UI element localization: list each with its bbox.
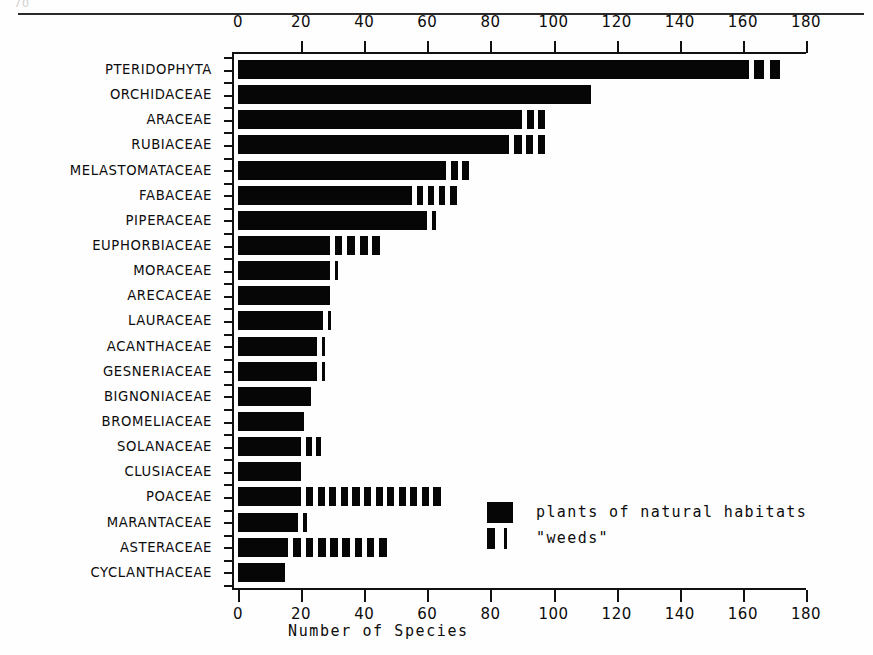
x-axis-tick-bottom: [364, 590, 366, 602]
y-axis-tick: [224, 359, 233, 361]
y-axis-tick: [224, 208, 233, 210]
category-label: MARANTACEAE: [107, 510, 212, 535]
bar-segment-weed: [328, 311, 331, 330]
legend-item-weeds: "weeds": [487, 526, 817, 552]
bar-segment-weed: [316, 437, 322, 456]
x-axis-line-top: [232, 52, 806, 54]
bar-segment-weed: [379, 538, 387, 557]
category-label: CYCLANTHACEAE: [90, 560, 212, 585]
bar-segment-weed: [376, 487, 383, 506]
bar-segment-weed: [399, 487, 406, 506]
bar-row: [238, 132, 806, 157]
x-axis-tick-label-top: 120: [602, 13, 632, 31]
bar-row: [238, 283, 806, 308]
y-axis-tick: [224, 258, 233, 260]
bar-segment-weed: [322, 362, 325, 381]
bar-row: [238, 57, 806, 82]
bar-row: [238, 384, 806, 409]
x-axis-tick-label-top: 100: [538, 13, 568, 31]
bar-segment-weed: [341, 487, 348, 506]
bar-segment-weed: [527, 110, 534, 129]
x-axis-tick-label-top: 80: [480, 13, 500, 31]
y-axis-tick-minor: [224, 246, 233, 248]
y-axis-tick-minor: [224, 95, 233, 97]
x-axis-tick-bottom: [238, 590, 240, 602]
x-axis-tick-bottom: [301, 590, 303, 602]
category-label: RUBIACEAE: [131, 132, 212, 157]
x-axis-tick-top: [301, 41, 303, 53]
bar-segment-natural: [238, 60, 749, 79]
x-axis-tick-bottom: [554, 590, 556, 602]
y-axis-tick: [224, 384, 233, 386]
x-axis-tick-label-bottom: 160: [728, 605, 758, 623]
category-label: POACEAE: [146, 484, 212, 509]
x-axis-tick-label-top: 20: [291, 13, 311, 31]
bar-segment-weed: [335, 236, 343, 255]
y-axis-tick-minor: [224, 346, 233, 348]
category-label: MELASTOMATACEAE: [70, 158, 212, 183]
x-axis-tick-top: [490, 41, 492, 53]
bar-segment-natural: [238, 261, 330, 280]
bar-segment-natural: [238, 462, 301, 481]
bar-segment-weed: [352, 487, 359, 506]
x-axis-tick-bottom: [680, 590, 682, 602]
x-axis-tick-label-top: 60: [417, 13, 437, 31]
bar-segment-weed: [439, 186, 446, 205]
x-axis-title: Number of Species: [288, 622, 469, 640]
y-axis-tick-minor: [224, 170, 233, 172]
y-axis-tick: [224, 132, 233, 134]
bar-segment-weed: [417, 186, 424, 205]
bar-row: [238, 258, 806, 283]
y-axis-tick: [224, 459, 233, 461]
y-axis-tick-minor: [224, 371, 233, 373]
bar-segment-natural: [238, 286, 330, 305]
bar-row: [238, 459, 806, 484]
bar-segment-weed: [514, 135, 521, 154]
bar-segment-weed: [538, 110, 545, 129]
bar-row: [238, 158, 806, 183]
category-label: SOLANACEAE: [117, 434, 212, 459]
bar-segment-natural: [238, 513, 298, 532]
scan-top-fragment: 70: [14, 0, 30, 10]
y-axis-tick-minor: [224, 296, 233, 298]
bar-segment-weed: [410, 487, 417, 506]
bar-segment-weed: [538, 135, 545, 154]
bar-segment-weed: [450, 186, 457, 205]
legend-swatch-weeds-icon: [487, 528, 495, 549]
category-label: FABACEAE: [139, 183, 212, 208]
y-axis-tick-minor: [224, 447, 233, 449]
bar-segment-weed: [306, 487, 313, 506]
x-axis-tick-label-bottom: 20: [291, 605, 311, 623]
y-axis-tick: [224, 308, 233, 310]
bar-segment-weed: [347, 236, 355, 255]
x-axis-tick-label-top: 0: [233, 13, 243, 31]
bar-segment-natural: [238, 362, 317, 381]
category-label: LAURACEAE: [128, 308, 212, 333]
bar-segment-weed: [364, 487, 371, 506]
chart-figure: 70 PTERIDOPHYTAORCHIDACEAEARACEAERUBIACE…: [0, 0, 873, 655]
bar-segment-weed: [367, 538, 375, 557]
bar-segment-weed: [306, 437, 312, 456]
bar-segment-weed: [306, 538, 314, 557]
bar-row: [238, 107, 806, 132]
bar-segment-weed: [329, 487, 336, 506]
x-axis-tick-bottom: [743, 590, 745, 602]
x-axis-tick-top: [427, 41, 429, 53]
bar-segment-weed: [422, 487, 429, 506]
bar-segment-weed: [322, 337, 325, 356]
x-axis-tick-label-bottom: 80: [480, 605, 500, 623]
y-axis-tick-minor: [224, 572, 233, 574]
bar-row: [238, 82, 806, 107]
y-axis-tick: [224, 560, 233, 562]
x-axis-tick-label-bottom: 140: [665, 605, 695, 623]
bar-segment-natural: [238, 487, 301, 506]
category-label: PIPERACEAE: [126, 208, 212, 233]
x-axis-tick-bottom: [427, 590, 429, 602]
y-axis-tick-minor: [224, 70, 233, 72]
bar-segment-natural: [238, 236, 330, 255]
legend-item-natural: plants of natural habitats: [487, 500, 817, 526]
x-axis-tick-top: [680, 41, 682, 53]
y-axis-tick-minor: [224, 422, 233, 424]
bar-row: [238, 334, 806, 359]
category-label: CLUSIACEAE: [125, 459, 213, 484]
